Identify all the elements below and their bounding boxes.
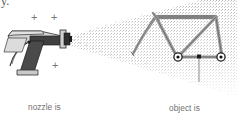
spray-gun bbox=[4, 30, 72, 75]
spray-cloud bbox=[66, 0, 237, 100]
nozzle-caption: nozzle is charged positively bbox=[28, 84, 63, 125]
figure-canvas: y. + + + + bbox=[0, 0, 237, 125]
object-caption-line: object is bbox=[169, 104, 201, 113]
object-caption: object is negative bbox=[169, 85, 201, 125]
nozzle-caption-line: nozzle is bbox=[28, 103, 63, 112]
